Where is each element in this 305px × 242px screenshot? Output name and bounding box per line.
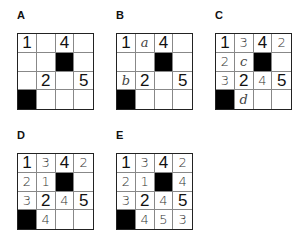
placeholder-letter: a [141, 36, 149, 49]
grid-cell: 3 [216, 72, 235, 91]
black-cell [216, 90, 235, 109]
filled-number: 4 [159, 194, 167, 207]
given-number: 5 [79, 192, 88, 209]
filled-number: 4 [178, 175, 186, 188]
grid-cell: 4 [155, 192, 174, 211]
empty-cell [173, 90, 192, 109]
grid-cell: 2 [235, 72, 254, 91]
empty-cell [136, 53, 155, 72]
empty-cell [74, 90, 93, 109]
empty-cell [18, 72, 37, 91]
grid-cell: 2 [18, 173, 37, 192]
grid-cell: 1 [18, 34, 37, 53]
grid-cell: 2 [117, 173, 136, 192]
grid-cell: 4 [155, 34, 174, 53]
filled-number: 3 [122, 194, 130, 207]
given-number: 4 [159, 154, 168, 171]
filled-number: 3 [239, 36, 247, 49]
empty-cell [56, 210, 75, 229]
grid-cell: 1 [37, 173, 56, 192]
grid-cell: 1 [117, 154, 136, 173]
puzzle-grid-a: 1425 [17, 33, 94, 110]
black-cell [155, 53, 174, 72]
filled-number: 3 [140, 156, 148, 169]
given-number: 2 [41, 192, 50, 209]
empty-cell [37, 34, 56, 53]
puzzle-grid-e: 13422143245453 [116, 153, 193, 230]
given-number: 2 [140, 192, 149, 209]
empty-cell [56, 90, 75, 109]
filled-number: 2 [122, 175, 130, 188]
filled-number: 3 [23, 194, 31, 207]
grid-cell: 4 [37, 210, 56, 229]
grid-cell: 4 [56, 154, 75, 173]
filled-number: 3 [221, 74, 229, 87]
grid-cell: 5 [74, 192, 93, 211]
empty-cell [74, 53, 93, 72]
grid-cell: 3 [117, 192, 136, 211]
empty-cell [37, 53, 56, 72]
filled-number: 1 [41, 175, 49, 188]
empty-cell [74, 34, 93, 53]
grid-cell: 4 [56, 34, 75, 53]
given-number: 1 [121, 154, 130, 171]
given-number: 1 [22, 154, 31, 171]
grid-cell: 4 [254, 72, 273, 91]
empty-cell [254, 90, 273, 109]
given-number: 5 [178, 72, 187, 89]
grid-cell: 2 [74, 154, 93, 173]
grid-cell: 2 [136, 192, 155, 211]
given-number: 2 [140, 72, 149, 89]
grid-cell: 2 [272, 34, 291, 53]
filled-number: 2 [277, 36, 285, 49]
filled-number: 4 [140, 213, 148, 226]
empty-cell [173, 34, 192, 53]
empty-cell [74, 210, 93, 229]
given-number: 5 [79, 72, 88, 89]
placeholder-letter: b [122, 74, 130, 87]
grid-cell: c [235, 53, 254, 72]
filled-number: 2 [221, 55, 229, 68]
empty-cell [74, 173, 93, 192]
grid-cell: 2 [37, 192, 56, 211]
empty-cell [272, 53, 291, 72]
empty-cell [37, 90, 56, 109]
filled-number: 2 [23, 175, 31, 188]
grid-cell: 4 [136, 210, 155, 229]
empty-cell [56, 72, 75, 91]
grid-cell: 3 [136, 154, 155, 173]
black-cell [56, 53, 75, 72]
grid-cell: 5 [74, 72, 93, 91]
filled-number: 3 [41, 156, 49, 169]
grid-cell: 5 [173, 192, 192, 211]
black-cell [155, 173, 174, 192]
given-number: 4 [60, 154, 69, 171]
black-cell [254, 53, 273, 72]
panel-label-c: C [215, 9, 223, 21]
given-number: 4 [258, 34, 267, 51]
given-number: 2 [41, 72, 50, 89]
placeholder-letter: d [239, 93, 247, 106]
filled-number: 3 [178, 213, 186, 226]
filled-number: 4 [41, 213, 49, 226]
empty-cell [272, 90, 291, 109]
black-cell [18, 210, 37, 229]
black-cell [117, 90, 136, 109]
grid-cell: 1 [136, 173, 155, 192]
empty-cell [173, 53, 192, 72]
empty-cell [136, 90, 155, 109]
empty-cell [117, 53, 136, 72]
given-number: 1 [121, 34, 130, 51]
given-number: 1 [220, 34, 229, 51]
grid-cell: 2 [173, 154, 192, 173]
grid-cell: 4 [173, 173, 192, 192]
empty-cell [155, 90, 174, 109]
grid-cell: a [136, 34, 155, 53]
black-cell [117, 210, 136, 229]
grid-cell: 4 [155, 154, 174, 173]
empty-cell [18, 53, 37, 72]
puzzle-grid-c: 13422c3245d [215, 33, 292, 110]
puzzle-grid-b: 1a4b25 [116, 33, 193, 110]
grid-cell: b [117, 72, 136, 91]
filled-number: 5 [159, 213, 167, 226]
